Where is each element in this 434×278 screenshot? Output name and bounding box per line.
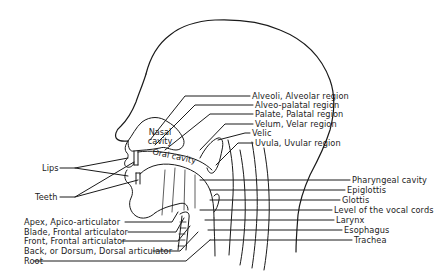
label-pharyngeal-cavity: Pharyngeal cavity [352, 175, 427, 185]
label-uvula: Uvula, Uvular region [255, 138, 341, 148]
label-teeth: Teeth [35, 192, 58, 202]
label-lips: Lips [42, 163, 59, 173]
label-glottis: Glottis [342, 195, 369, 205]
label-velic: Velic [252, 128, 272, 138]
nasal-cavity-label: Nasal cavity [142, 128, 178, 146]
label-larynx: Larynx [336, 215, 364, 225]
label-apex: Apex, Apico-articulator [24, 217, 120, 227]
nasal-cavity-line2: cavity [142, 137, 178, 146]
label-epiglottis: Epiglottis [347, 185, 386, 195]
label-esophagus: Esophagus [344, 225, 389, 235]
label-vocal-cords-level: Level of the vocal cords [334, 205, 434, 215]
label-back-dorsum: Back, or Dorsum, Dorsal articulator [24, 246, 172, 256]
label-root: Root [24, 256, 43, 266]
label-palate: Palate, Palatal region [255, 109, 343, 119]
label-trachea: Trachea [354, 235, 387, 245]
label-front: Front, Frontal articulator [24, 236, 126, 246]
